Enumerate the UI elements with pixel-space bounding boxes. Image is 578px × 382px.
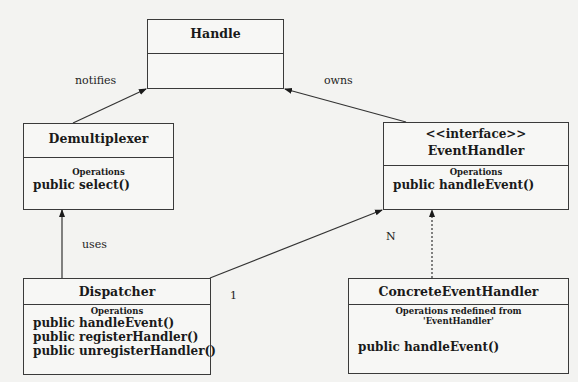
class-name: EventHandler [384, 143, 568, 158]
operations-header: Operations [24, 167, 173, 177]
class-name: ConcreteEventHandler [349, 284, 568, 299]
operation: public unregisterHandler() [33, 344, 216, 358]
class-name: Dispatcher [24, 284, 210, 299]
class-name: Demultiplexer [24, 131, 173, 146]
label-uses: uses [82, 238, 107, 251]
divider [148, 53, 283, 54]
class-name: Handle [148, 26, 283, 41]
owns-connector [285, 89, 406, 122]
multiplicity-n: N [386, 230, 396, 243]
operation: public select() [33, 178, 130, 192]
operation: public registerHandler() [33, 330, 198, 344]
dispatcher-eventhandler-connector [210, 210, 382, 278]
class-handle[interactable]: Handle [147, 19, 284, 89]
label-owns: owns [324, 74, 353, 87]
class-dispatcher[interactable]: Dispatcher Operations public handleEvent… [23, 278, 211, 375]
operations-header: Operations redefined from [349, 306, 568, 316]
class-concrete-event-handler[interactable]: ConcreteEventHandler Operations redefine… [348, 278, 569, 374]
operations-header: Operations [24, 306, 210, 316]
class-demultiplexer[interactable]: Demultiplexer Operations public select() [23, 123, 174, 210]
class-event-handler[interactable]: <<interface>> EventHandler Operations pu… [383, 122, 569, 210]
operation: public handleEvent() [33, 316, 174, 330]
operations-header-source: 'EventHandler' [349, 316, 568, 326]
operations-header: Operations [384, 167, 568, 177]
operation: public handleEvent() [393, 178, 534, 192]
stereotype: <<interface>> [384, 127, 568, 141]
divider [24, 157, 173, 158]
divider [24, 304, 210, 305]
operation: public handleEvent() [358, 340, 499, 354]
notifies-connector [73, 89, 146, 123]
divider [384, 165, 568, 166]
label-notifies: notifies [75, 74, 116, 87]
multiplicity-1: 1 [230, 289, 237, 302]
divider [349, 304, 568, 305]
